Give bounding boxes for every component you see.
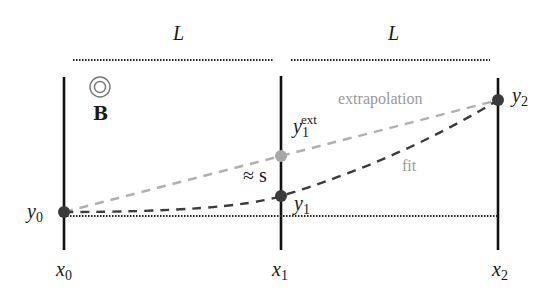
approx-s-text: ≈ s <box>243 164 267 186</box>
point-y2 <box>492 94 504 106</box>
x2-label: x2 <box>492 258 508 284</box>
y1ext-label: y1ext <box>293 112 317 141</box>
point-y1ext <box>275 150 287 162</box>
approx-s-label: ≈ s <box>243 164 267 187</box>
field-out-of-page-icon <box>90 77 110 97</box>
span-right-label: L <box>388 22 399 45</box>
point-y0 <box>58 206 70 218</box>
point-y1 <box>275 190 287 202</box>
fit-label: fit <box>402 157 416 175</box>
y1-label: y1 <box>294 192 310 218</box>
field-label: B <box>93 103 108 124</box>
y2-label: y2 <box>512 84 528 110</box>
track-extrapolation-diagram <box>0 0 560 298</box>
field-out-of-page-icon-inner <box>95 82 106 93</box>
span-left-label: L <box>173 22 184 45</box>
x0-label: x0 <box>56 258 72 284</box>
y0-label: y0 <box>27 200 43 226</box>
extrapolation-label: extrapolation <box>338 90 422 108</box>
x1-label: x1 <box>272 258 288 284</box>
